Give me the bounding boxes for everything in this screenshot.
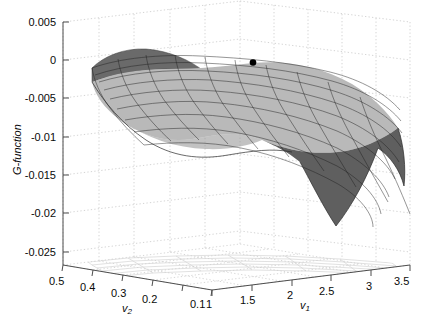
v2-tick-label: 0.5 [49, 276, 64, 287]
v2-tick-label: 0.2 [142, 294, 157, 305]
v1-tick-label: 3 [366, 281, 372, 292]
z-tick-label: -0.025 [6, 247, 56, 258]
floor-projection-shadow [88, 255, 406, 277]
v1-tick-label: 2.5 [319, 286, 334, 297]
z-tick-label: -0.02 [6, 208, 56, 219]
v2-axis-title: v2 [122, 303, 132, 316]
v1-tick-label: 1 [206, 299, 212, 310]
v1-tick-label: 1.5 [240, 295, 255, 306]
v1-tick-label: 2 [287, 290, 293, 301]
z-tick-label: 0.005 [6, 17, 56, 28]
z-tick-marks [63, 22, 69, 252]
v1-axis-title-subscript: 1 [306, 304, 310, 313]
z-tick-label: 0 [6, 55, 56, 66]
v1-tick-label: 3.5 [394, 276, 409, 287]
v1-tick-marks [212, 265, 410, 296]
v2-tick-label: 0.3 [111, 288, 126, 299]
optimum-marker [250, 59, 257, 66]
surface-plot-figure: 0.005 0 -0.005 -0.01 -0.015 -0.02 -0.025… [0, 0, 424, 328]
v2-tick-label: 0.1 [190, 299, 205, 310]
v2-tick-label: 0.4 [80, 282, 95, 293]
z-axis-title: G-function [12, 124, 23, 175]
v2-axis-title-subscript: 2 [128, 307, 132, 316]
z-tick-label: -0.005 [6, 93, 56, 104]
v1-axis-title: v1 [300, 300, 310, 313]
surface-mesh [92, 49, 410, 227]
